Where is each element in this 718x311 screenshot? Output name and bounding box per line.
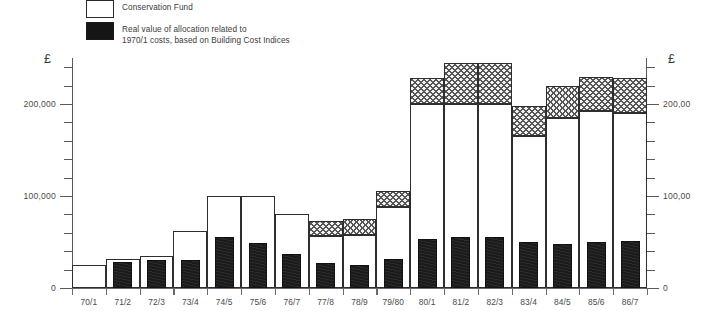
x-axis-tick <box>309 288 310 295</box>
x-axis-category-label: 77/8 <box>317 297 334 307</box>
x-axis-category-label: 86/7 <box>622 297 639 307</box>
legend-item-label: Conservation Fund <box>122 0 193 14</box>
bar-segment-real-value <box>485 237 504 288</box>
x-axis-category-label: 73/4 <box>182 297 199 307</box>
bar-group <box>106 58 140 288</box>
x-axis-category-label: 82/3 <box>486 297 503 307</box>
bar-segment-supplementary-allocation <box>376 191 410 207</box>
bar-segment-supplementary-allocation <box>478 63 512 104</box>
x-axis-tick <box>444 288 445 295</box>
bar-segment-supplementary-allocation <box>309 221 343 236</box>
x-axis-tick <box>72 288 73 295</box>
bar-segment-supplementary-allocation <box>579 77 613 111</box>
bar-segment-supplementary-allocation <box>444 63 478 104</box>
bar-segment-supplementary-allocation <box>343 219 377 235</box>
y-axis-right-tick <box>646 178 655 179</box>
x-axis-tick <box>207 288 208 295</box>
y-axis-right-tick <box>646 196 659 197</box>
bar-segment-real-value <box>587 242 606 288</box>
x-axis-tick <box>647 288 648 295</box>
y-axis-right-tick <box>646 233 655 234</box>
solid-black-swatch-icon <box>78 22 122 40</box>
bar-segment-conservation-fund <box>72 265 106 288</box>
x-axis-category-label: 72/3 <box>148 297 165 307</box>
bar-group <box>410 58 444 288</box>
bar-group <box>72 58 106 288</box>
y-axis-right-tick-label: 100,00 <box>663 191 691 201</box>
bar-group <box>613 58 647 288</box>
chart-legend: Conservation Fund Real value of allocati… <box>78 0 408 50</box>
bar-group <box>343 58 377 288</box>
x-axis-tick <box>241 288 242 295</box>
bar-segment-supplementary-allocation <box>546 86 580 118</box>
x-axis-tick <box>106 288 107 295</box>
y-axis-right-tick <box>646 251 655 252</box>
legend-item-label: Real value of allocation related to1970/… <box>122 22 290 46</box>
bar-group <box>579 58 613 288</box>
open-rect-swatch-icon <box>78 0 122 18</box>
x-axis-category-label: 84/5 <box>554 297 571 307</box>
bar-group <box>376 58 410 288</box>
x-axis-tick <box>546 288 547 295</box>
x-axis-category-label: 71/2 <box>114 297 131 307</box>
bar-segment-real-value <box>418 239 437 288</box>
x-axis-tick <box>173 288 174 295</box>
y-axis-left-tick-label: 100,000 <box>0 191 56 201</box>
bar-segment-supplementary-allocation <box>410 78 444 104</box>
plot-area <box>72 58 647 288</box>
bar-segment-supplementary-allocation <box>512 106 546 136</box>
y-axis-right-tick-label: 200,00 <box>663 99 691 109</box>
y-axis-right-tick-label: 0 <box>663 283 668 293</box>
x-axis-category-label: 76/7 <box>283 297 300 307</box>
bar-group <box>478 58 512 288</box>
x-axis-tick <box>343 288 344 295</box>
bar-segment-real-value <box>519 242 538 288</box>
y-axis-right-tick <box>646 270 655 271</box>
legend-item-conservation-fund: Conservation Fund <box>78 0 408 18</box>
bar-group <box>207 58 241 288</box>
x-axis-tick <box>478 288 479 295</box>
bar-segment-real-value <box>282 254 301 288</box>
x-axis-tick <box>410 288 411 295</box>
bar-group <box>275 58 309 288</box>
x-axis-category-label: 75/6 <box>250 297 267 307</box>
bar-segment-real-value <box>384 259 403 288</box>
y-axis-right-tick <box>646 141 655 142</box>
bar-segment-real-value <box>553 244 572 288</box>
x-axis-category-label: 83/4 <box>520 297 537 307</box>
y-axis-right-currency-symbol: £ <box>668 52 675 66</box>
y-axis-right-tick <box>646 104 659 105</box>
bar-segment-real-value <box>147 260 166 288</box>
bar-group <box>444 58 478 288</box>
bar-segment-real-value <box>621 241 640 288</box>
x-axis-category-label: 85/6 <box>588 297 605 307</box>
x-axis-tick <box>579 288 580 295</box>
y-axis-left-tick-label: 0 <box>0 283 56 293</box>
bar-segment-real-value <box>181 260 200 288</box>
legend-item-real-value: Real value of allocation related to1970/… <box>78 22 408 46</box>
x-axis-category-label: 78/9 <box>351 297 368 307</box>
y-axis-left-currency-symbol: £ <box>44 52 51 66</box>
x-axis-baseline <box>72 288 647 289</box>
x-axis-category-label: 74/5 <box>216 297 233 307</box>
x-axis-tick <box>376 288 377 295</box>
bar-group <box>309 58 343 288</box>
y-axis-right-tick <box>646 122 655 123</box>
bar-segment-real-value <box>316 263 335 288</box>
x-axis-category-label: 70/1 <box>81 297 98 307</box>
x-axis-tick <box>140 288 141 295</box>
y-axis-right-tick <box>646 67 655 68</box>
bar-group <box>512 58 546 288</box>
x-axis-tick <box>613 288 614 295</box>
y-axis-right-tick <box>646 86 655 87</box>
bar-group <box>546 58 580 288</box>
bar-group <box>173 58 207 288</box>
bar-group <box>140 58 174 288</box>
conservation-fund-bar-chart: Conservation Fund Real value of allocati… <box>0 0 718 311</box>
bar-segment-real-value <box>350 265 369 288</box>
bar-segment-real-value <box>249 243 268 288</box>
y-axis-right-tick <box>646 214 655 215</box>
bar-segment-real-value <box>113 262 132 288</box>
bar-segment-real-value <box>451 237 470 288</box>
y-axis-right-tick <box>646 159 655 160</box>
